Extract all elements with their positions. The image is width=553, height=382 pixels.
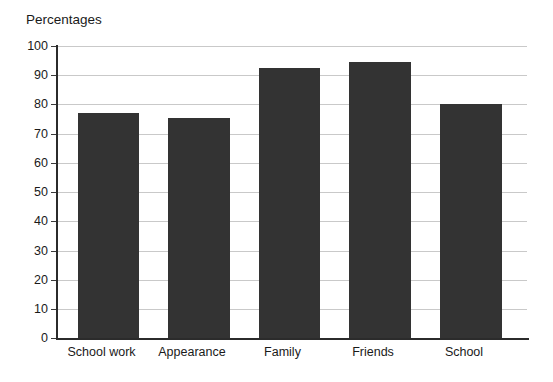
y-axis-tick-labels: 100 90 80 70 60 50 40 30 20 10 0 <box>0 0 48 382</box>
bar-appearance <box>168 118 230 339</box>
bar-family <box>259 68 320 338</box>
y-tick-label-90: 90 <box>2 69 48 81</box>
y-tick-label-60: 60 <box>2 157 48 169</box>
x-tick-label-school: School <box>410 345 518 360</box>
y-axis-line <box>56 45 58 340</box>
bar-chart: Percentages 100 90 80 70 60 50 40 30 20 … <box>0 0 553 382</box>
y-tick-label-50: 50 <box>2 186 48 198</box>
y-tick-label-10: 10 <box>2 303 48 315</box>
y-tick-label-100: 100 <box>2 40 48 52</box>
y-tick-label-70: 70 <box>2 128 48 140</box>
y-tick-label-0: 0 <box>2 332 48 344</box>
bar-friends <box>349 62 411 338</box>
bar-school-work <box>78 113 139 338</box>
y-tick-label-40: 40 <box>2 215 48 227</box>
bars-layer <box>57 46 527 338</box>
y-tick-label-20: 20 <box>2 274 48 286</box>
y-tick-label-80: 80 <box>2 98 48 110</box>
x-axis-line <box>56 338 529 340</box>
y-tick-label-30: 30 <box>2 245 48 257</box>
bar-school <box>440 104 502 338</box>
